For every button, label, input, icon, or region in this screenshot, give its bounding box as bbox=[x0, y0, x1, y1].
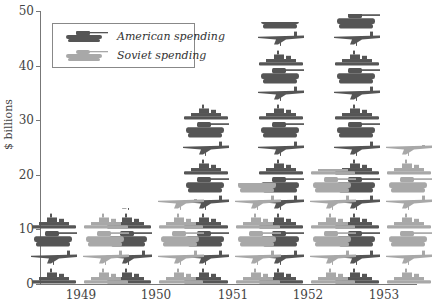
tank-icon bbox=[29, 229, 79, 247]
y-tick bbox=[36, 284, 40, 285]
plane-icon bbox=[332, 84, 382, 102]
plane-icon bbox=[156, 199, 206, 211]
x-tick-label: 1950 bbox=[126, 288, 186, 302]
ship-icon bbox=[156, 266, 206, 284]
ship-icon bbox=[81, 213, 131, 229]
legend: American spending Soviet spending bbox=[52, 23, 195, 68]
bar-soviet-1950 bbox=[156, 199, 206, 284]
y-tick bbox=[36, 175, 40, 176]
tank-icon bbox=[233, 229, 283, 247]
x-tick-label: 1952 bbox=[278, 288, 338, 302]
tank-icon bbox=[81, 229, 131, 247]
bar-american-1949 bbox=[29, 213, 79, 284]
y-tick bbox=[36, 66, 40, 67]
plane-icon bbox=[104, 208, 154, 212]
tank-icon bbox=[59, 48, 111, 62]
bar-soviet-1949 bbox=[81, 213, 131, 284]
legend-item-american: American spending bbox=[59, 27, 225, 45]
y-tick-label: 30 bbox=[4, 114, 34, 126]
plane-icon bbox=[81, 248, 131, 266]
ship-icon bbox=[384, 157, 434, 175]
ship-icon bbox=[233, 211, 283, 229]
y-tick bbox=[36, 120, 40, 121]
ship-icon bbox=[308, 266, 358, 284]
tank-icon bbox=[256, 22, 306, 30]
y-tick-label: 50 bbox=[4, 5, 34, 17]
x-tick-label: 1949 bbox=[51, 288, 111, 302]
ship-icon bbox=[332, 102, 382, 120]
tank-icon bbox=[156, 229, 206, 247]
tank-icon bbox=[384, 229, 434, 247]
plane-icon bbox=[308, 193, 358, 211]
plane-icon bbox=[308, 248, 358, 266]
y-tick-label: 20 bbox=[4, 169, 34, 181]
tank-icon bbox=[308, 229, 358, 247]
tank-icon bbox=[181, 175, 231, 193]
ship-icon bbox=[308, 211, 358, 229]
plane-icon bbox=[384, 145, 434, 157]
plane-icon bbox=[332, 29, 382, 47]
tank-icon bbox=[332, 66, 382, 84]
x-axis bbox=[40, 284, 417, 285]
y-tick bbox=[36, 11, 40, 12]
ship-icon bbox=[256, 48, 306, 66]
plane-icon bbox=[156, 248, 206, 266]
plane-icon bbox=[256, 29, 306, 47]
ship-icon bbox=[256, 157, 306, 175]
plane-icon bbox=[233, 193, 283, 211]
ship-icon bbox=[384, 211, 434, 229]
tank-icon bbox=[256, 120, 306, 138]
tank-icon bbox=[308, 175, 358, 193]
ship-icon bbox=[308, 169, 358, 175]
ship-icon bbox=[384, 266, 434, 284]
ship-icon bbox=[181, 102, 231, 120]
bar-soviet-1953 bbox=[384, 145, 434, 284]
bar-soviet-1951 bbox=[233, 183, 283, 284]
ship-icon bbox=[181, 157, 231, 175]
tank-icon bbox=[233, 183, 283, 193]
plane-icon bbox=[256, 139, 306, 157]
tank-icon bbox=[59, 29, 111, 43]
y-tick-label: 40 bbox=[4, 60, 34, 72]
tank-icon bbox=[332, 120, 382, 138]
ship-icon bbox=[156, 211, 206, 229]
plane-icon bbox=[256, 84, 306, 102]
x-tick-label: 1953 bbox=[354, 288, 414, 302]
bar-soviet-1952 bbox=[308, 169, 358, 284]
plane-icon bbox=[332, 139, 382, 157]
tank-icon bbox=[332, 14, 382, 30]
ship-icon bbox=[29, 213, 79, 229]
tank-icon bbox=[256, 66, 306, 84]
plane-icon bbox=[384, 193, 434, 211]
plane-icon bbox=[181, 139, 231, 157]
ship-icon bbox=[29, 266, 79, 284]
tank-icon bbox=[181, 120, 231, 138]
plane-icon bbox=[233, 248, 283, 266]
ship-icon bbox=[256, 102, 306, 120]
tank-icon bbox=[384, 175, 434, 193]
ship-icon bbox=[81, 266, 131, 284]
plane-icon bbox=[29, 248, 79, 266]
legend-item-soviet: Soviet spending bbox=[59, 46, 206, 64]
plane-icon bbox=[384, 248, 434, 266]
x-tick-label: 1951 bbox=[203, 288, 263, 302]
ship-icon bbox=[332, 48, 382, 66]
plane-icon bbox=[181, 101, 231, 102]
ship-icon bbox=[233, 266, 283, 284]
